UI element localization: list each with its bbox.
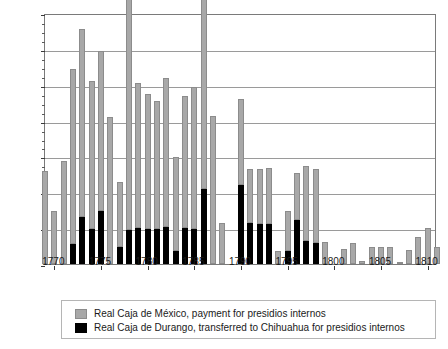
bar-group xyxy=(322,13,328,264)
bar-group xyxy=(201,13,207,264)
bar-segment-mexico xyxy=(210,116,216,264)
bar-group xyxy=(42,13,48,264)
bar-segment-mexico xyxy=(61,161,67,264)
bar-group xyxy=(285,13,291,264)
x-axis-tick-label: 1790 xyxy=(220,256,260,267)
bar-segment-mexico xyxy=(313,169,319,243)
plot-area xyxy=(44,14,436,265)
bar-group xyxy=(219,13,225,264)
legend: Real Caja de México, payment for presidi… xyxy=(61,300,436,339)
chart-figure: Pesos (thousands) 02004006008001,0001,20… xyxy=(0,0,448,349)
bar-segment-mexico xyxy=(163,78,169,227)
x-axis-tick-label: 1805 xyxy=(360,256,400,267)
bar-group xyxy=(238,13,244,264)
bar-group xyxy=(89,13,95,264)
bar-group xyxy=(313,13,319,264)
bar-group xyxy=(98,13,104,264)
bar-group xyxy=(369,13,375,264)
bar-group xyxy=(107,13,113,264)
bar-segment-mexico xyxy=(126,0,132,230)
bar-group xyxy=(341,13,347,264)
bar-group xyxy=(359,13,365,264)
x-axis-tick-label: 1770 xyxy=(33,256,73,267)
bar-group xyxy=(145,13,151,264)
bar-group xyxy=(70,13,76,264)
bar-group xyxy=(51,13,57,264)
bar-segment-mexico xyxy=(89,81,95,229)
bar-segment-mexico xyxy=(117,182,123,247)
bar-group xyxy=(294,13,300,264)
bar-group xyxy=(266,13,272,264)
bar-segment-mexico xyxy=(257,169,263,224)
bar-group xyxy=(117,13,123,264)
bar-segment-mexico xyxy=(154,101,160,229)
bar-group xyxy=(182,13,188,264)
bar-segment-mexico xyxy=(135,83,141,228)
bar-group xyxy=(406,13,412,264)
x-axis-tick-label: 1785 xyxy=(173,256,213,267)
bar-group xyxy=(191,13,197,264)
bar-group xyxy=(303,13,309,264)
mexico-swatch-icon xyxy=(75,309,87,319)
bar-segment-mexico xyxy=(285,211,291,250)
bar-segment-mexico xyxy=(294,173,300,221)
bar-segment-mexico xyxy=(98,51,104,211)
bar-group xyxy=(378,13,384,264)
x-axis-tick-label: 1775 xyxy=(80,256,120,267)
bar-group xyxy=(154,13,160,264)
bar-group xyxy=(173,13,179,264)
legend-item-durango: Real Caja de Durango, transferred to Chi… xyxy=(75,322,405,333)
x-axis-tick-label: 1780 xyxy=(127,256,167,267)
legend-label-mexico: Real Caja de México, payment for presidi… xyxy=(94,308,326,319)
bar-group xyxy=(275,13,281,264)
bar-group xyxy=(79,13,85,264)
bar-segment-mexico xyxy=(70,69,76,244)
bar-group xyxy=(61,13,67,264)
bar-segment-mexico xyxy=(182,96,188,228)
bar-segment-durango xyxy=(201,189,207,264)
bar-group xyxy=(126,13,132,264)
bar-segment-mexico xyxy=(247,169,253,223)
bar-group xyxy=(163,13,169,264)
bar-segment-mexico xyxy=(201,0,207,189)
x-axis-tick-label: 1795 xyxy=(267,256,307,267)
bar-group xyxy=(350,13,356,264)
legend-item-mexico: Real Caja de México, payment for presidi… xyxy=(75,308,326,319)
bar-group xyxy=(210,13,216,264)
bar-group xyxy=(247,13,253,264)
bar-group xyxy=(415,13,421,264)
bar-segment-mexico xyxy=(107,117,113,264)
x-axis-tick-label: 1800 xyxy=(313,256,353,267)
bar-group xyxy=(425,13,431,264)
x-axis-tick-label: 1810 xyxy=(407,256,447,267)
legend-label-durango: Real Caja de Durango, transferred to Chi… xyxy=(94,322,405,333)
durango-swatch-icon xyxy=(75,323,87,333)
bar-segment-mexico xyxy=(79,29,85,217)
bar-segment-mexico xyxy=(266,168,272,224)
bar-segment-mexico xyxy=(42,171,48,264)
bar-segment-durango xyxy=(238,185,244,264)
bar-segment-mexico xyxy=(173,157,179,250)
bar-group xyxy=(257,13,263,264)
bar-group xyxy=(135,13,141,264)
bar-group xyxy=(397,13,403,264)
bar-group xyxy=(387,13,393,264)
bar-segment-mexico xyxy=(145,94,151,229)
bar-group xyxy=(434,13,440,264)
bar-segment-mexico xyxy=(238,99,244,185)
bar-segment-mexico xyxy=(191,87,197,229)
bar-segment-mexico xyxy=(303,166,309,240)
